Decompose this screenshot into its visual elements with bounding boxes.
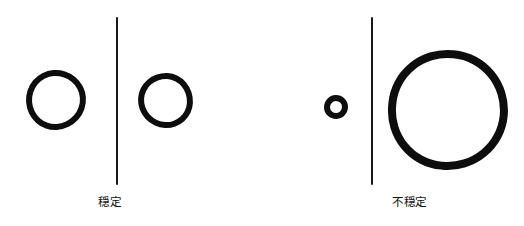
panel-stable: 穏定 [0, 0, 262, 226]
divider-line-unstable [371, 17, 373, 185]
circle-unstable-large [383, 45, 513, 175]
figure-canvas: 穏定 不穏定 [0, 0, 524, 226]
panel-unstable: 不穏定 [262, 0, 524, 226]
circle-stable-left [24, 68, 88, 132]
divider-line-stable [116, 17, 118, 185]
caption-unstable: 不穏定 [392, 196, 427, 209]
circle-unstable-small [324, 95, 349, 120]
caption-stable: 穏定 [98, 196, 121, 209]
circle-stable-right [136, 71, 194, 129]
